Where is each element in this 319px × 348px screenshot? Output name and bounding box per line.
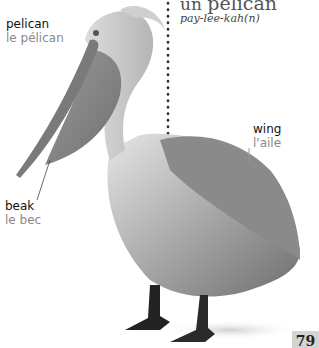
label-wing-english: wing (253, 122, 281, 136)
label-pelican-french: le pélican (6, 31, 64, 45)
label-wing-french: l'aile (253, 136, 281, 150)
label-beak-french: le bec (5, 213, 41, 227)
label-pelican-english: pelican (6, 17, 64, 31)
label-beak-english: beak (5, 199, 41, 213)
label-beak: beak le bec (5, 199, 41, 227)
label-pelican: pelican le pélican (6, 17, 64, 45)
label-wing: wing l'aile (253, 122, 281, 150)
page-number: 79 (292, 331, 319, 348)
pelican-photo (0, 0, 319, 348)
